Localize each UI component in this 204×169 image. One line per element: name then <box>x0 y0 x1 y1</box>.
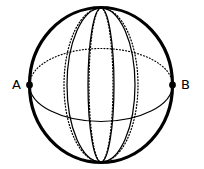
equator-back-arc <box>30 48 173 85</box>
point-a-label: A <box>12 78 21 91</box>
sphere-outline <box>30 8 173 163</box>
meridian-dotted-inner <box>89 8 113 162</box>
point-a-marker <box>26 82 33 89</box>
meridian-dotted-outer <box>64 8 138 162</box>
equator-front-arc <box>30 85 173 122</box>
point-b-label: B <box>181 78 190 91</box>
point-b-marker <box>169 82 176 89</box>
sphere-illustration <box>0 0 204 169</box>
sphere-diagram-canvas: A B <box>0 0 204 169</box>
meridian-solid-outer <box>67 8 135 162</box>
